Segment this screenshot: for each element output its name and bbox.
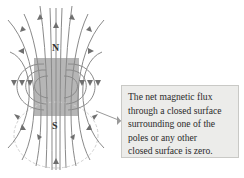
callout-line: closed surface is zero. [128,144,234,158]
south-pole-label: S [52,120,58,131]
callout-line: surrounding one of the [128,117,234,131]
callout-line: The net magnetic flux [128,90,234,104]
callout-line: through a closed surface [128,104,234,118]
callout-line: poles or any other [128,131,234,145]
north-pole-label: N [52,42,59,53]
callout-box: The net magnetic flux through a closed s… [121,85,239,158]
